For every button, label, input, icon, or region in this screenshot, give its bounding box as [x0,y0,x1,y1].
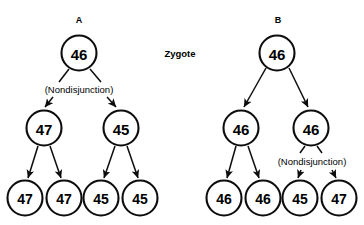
node-b-zygote: 46 [260,36,295,71]
edge-b-right-to-child4-upper [317,146,322,153]
node-a-four-cell-4: 45 [123,181,158,216]
node-b-four-cell-3: 45 [283,181,318,216]
node-b-four-cell-1: 46 [207,181,242,216]
panel-b: B (Nondisjunction) 46 [207,15,357,216]
node-a-two-cell-left-value: 47 [36,121,53,138]
diagram-canvas: A (Nondisjunction) 46 [0,0,364,225]
edge-a-zygote-to-left-upper [59,69,69,82]
node-b-two-cell-right: 46 [294,111,329,146]
node-a-two-cell-right: 45 [104,111,139,146]
node-b-two-cell-left: 46 [224,111,259,146]
edge-b-zygote-to-left [244,68,266,107]
edge-a-zygote-to-left-lower [45,97,53,107]
panel-b-edges-level2-left [227,146,259,178]
node-a-two-cell-left: 47 [27,111,62,146]
node-a-four-cell-4-value: 45 [132,191,148,207]
node-b-zygote-value: 46 [269,46,286,63]
node-a-zygote: 46 [62,36,97,71]
edge-a-right-to-child4 [127,146,138,178]
node-a-four-cell-2-value: 47 [56,191,72,207]
node-a-four-cell-3: 45 [84,181,119,216]
edge-b-right-to-child3-lower [298,170,301,178]
node-b-two-cell-left-value: 46 [233,121,250,138]
panel-a-label: A [76,15,83,25]
zygote-annotation: Zygote [164,48,195,59]
edge-a-zygote-to-right-lower [107,97,116,107]
panel-b-label: B [275,15,282,25]
node-b-four-cell-1-value: 46 [216,191,232,207]
node-b-four-cell-3-value: 45 [292,191,308,207]
node-a-four-cell-1: 47 [8,181,43,216]
edge-b-left-to-child2 [248,146,259,178]
panel-a-edges-level2 [28,146,138,178]
node-a-four-cell-2: 47 [47,181,82,216]
panel-b-nondisjunction-label: (Nondisjunction) [278,156,347,167]
edge-a-right-to-child3 [104,146,115,178]
edge-b-right-to-child3-upper [300,146,305,153]
node-b-four-cell-4: 47 [322,181,357,216]
edge-b-left-to-child1 [227,146,236,178]
panel-b-edges-level1 [244,68,308,107]
node-b-two-cell-right-value: 46 [303,121,320,138]
mosaicism-diagram: A (Nondisjunction) 46 [0,0,364,225]
node-a-two-cell-right-value: 45 [113,121,130,138]
node-a-four-cell-3-value: 45 [93,191,109,207]
edge-a-left-to-child2 [50,146,61,178]
node-a-four-cell-1-value: 47 [17,191,33,207]
panel-a: A (Nondisjunction) 46 [8,15,158,216]
panel-a-nondisjunction-label: (Nondisjunction) [45,84,114,95]
edge-a-zygote-to-right-upper [90,69,101,82]
node-b-four-cell-4-value: 47 [331,191,347,207]
edge-b-right-to-child4-lower [332,170,336,178]
edge-b-zygote-to-right [289,68,308,107]
node-b-four-cell-2-value: 46 [255,191,271,207]
node-b-four-cell-2: 46 [246,181,281,216]
edge-a-left-to-child1 [28,146,38,178]
node-a-zygote-value: 46 [71,46,88,63]
